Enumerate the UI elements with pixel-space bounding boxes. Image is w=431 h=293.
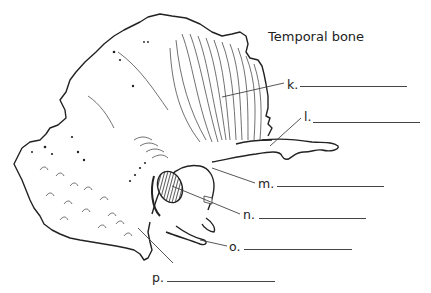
mastoid-texture [40, 137, 168, 236]
label-n: n. [243, 208, 255, 222]
answer-blank-m[interactable] [277, 186, 384, 187]
squamous-striations [88, 34, 261, 142]
temporal-bone-illustration [0, 0, 431, 293]
diagram-title: Temporal bone [268, 29, 364, 44]
label-m: m. [258, 177, 274, 191]
answer-blank-l[interactable] [313, 122, 420, 123]
surface-dots [31, 41, 149, 182]
answer-blank-k[interactable] [300, 86, 407, 87]
label-p: p. [152, 271, 164, 285]
label-o: o. [229, 240, 240, 254]
label-l: l. [304, 110, 311, 124]
answer-blank-o[interactable] [244, 249, 352, 250]
answer-blank-p[interactable] [167, 281, 275, 282]
answer-blank-n[interactable] [259, 218, 366, 219]
label-k: k. [287, 78, 298, 92]
acoustic-meatus [153, 168, 186, 206]
bone-outline [14, 14, 338, 260]
